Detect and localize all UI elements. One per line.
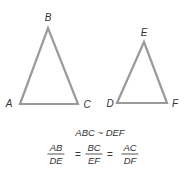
fraction-numerator: AB — [48, 143, 65, 155]
vertex-label-a: A — [6, 99, 13, 109]
vertex-label-c: C — [83, 100, 90, 110]
equals-sign: = — [75, 149, 81, 160]
vertex-label-b: B — [45, 13, 52, 23]
vertex-label-d: D — [106, 99, 113, 109]
triangle-abc — [20, 28, 78, 104]
fraction-numerator: BC — [85, 143, 102, 155]
similar-triangles-diagram: B A C E D F ABC ~ DEF AB DE = BC EF = AC… — [0, 0, 186, 180]
fraction-denominator: DF — [122, 155, 139, 166]
fraction-denominator: EF — [86, 155, 102, 166]
fraction-ab-de: AB DE — [47, 143, 64, 166]
similarity-statement: ABC ~ DEF — [75, 127, 124, 138]
vertex-label-f: F — [172, 99, 178, 109]
fraction-numerator: AC — [121, 143, 138, 155]
triangle-def — [117, 42, 167, 103]
fraction-denominator: DE — [47, 155, 64, 166]
fraction-bc-ef: BC EF — [85, 143, 102, 166]
equals-sign: = — [107, 149, 113, 160]
fraction-ac-df: AC DF — [121, 143, 138, 166]
vertex-label-e: E — [141, 28, 148, 38]
